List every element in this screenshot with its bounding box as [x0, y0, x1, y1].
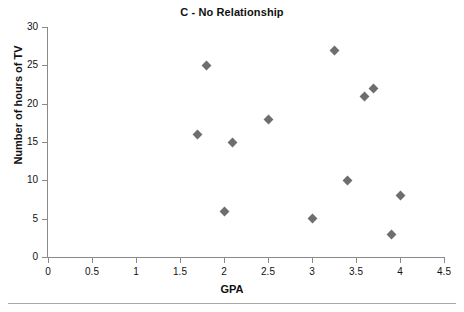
x-axis-tick-label: 3	[297, 266, 327, 277]
x-axis-tick	[444, 258, 445, 263]
x-axis-tick-label: 2	[209, 266, 239, 277]
x-axis-tick-label: 3.5	[341, 266, 371, 277]
y-axis-tick	[42, 142, 47, 143]
scatter-plot-figure: C - No Relationship 051015202530 00.511.…	[0, 0, 464, 312]
y-axis-tick	[42, 65, 47, 66]
y-axis-tick	[42, 180, 47, 181]
plot-area	[48, 27, 444, 257]
x-axis-tick	[136, 258, 137, 263]
y-axis-tick	[42, 257, 47, 258]
x-axis-tick-label: 1.5	[165, 266, 195, 277]
x-axis-tick	[400, 258, 401, 263]
x-axis-tick-label: 0	[33, 266, 63, 277]
x-axis-tick-label: 1	[121, 266, 151, 277]
x-axis-tick-label: 0.5	[77, 266, 107, 277]
x-axis-title: GPA	[0, 283, 464, 295]
chart-title: C - No Relationship	[0, 6, 464, 18]
x-axis-line	[47, 257, 445, 258]
x-axis-tick	[48, 258, 49, 263]
x-axis-tick-label: 4.5	[429, 266, 459, 277]
x-axis-tick	[92, 258, 93, 263]
x-axis-tick-label: 4	[385, 266, 415, 277]
x-axis-tick	[180, 258, 181, 263]
y-axis-tick-label: 5	[14, 214, 38, 224]
y-axis-tick	[42, 27, 47, 28]
y-axis-tick	[42, 104, 47, 105]
bottom-divider	[8, 303, 456, 304]
x-axis-tick	[224, 258, 225, 263]
y-axis-tick	[42, 219, 47, 220]
y-axis-tick-label: 0	[14, 252, 38, 262]
y-axis-title: Number of hours of TV	[12, 25, 24, 185]
x-axis-tick	[312, 258, 313, 263]
x-axis-tick-label: 2.5	[253, 266, 283, 277]
x-axis-tick	[356, 258, 357, 263]
x-axis-tick	[268, 258, 269, 263]
